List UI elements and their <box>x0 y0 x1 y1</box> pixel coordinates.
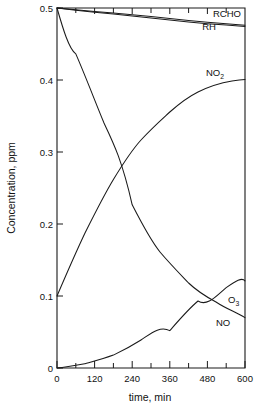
series-curves <box>57 8 245 368</box>
x-axis-tick-labels: 0 120 240 360 480 600 <box>54 373 253 384</box>
y-tick-label-0.5: 0.5 <box>40 3 53 14</box>
x-axis-title: time, min <box>129 391 172 403</box>
chart-canvas: 0.5 0.4 0.3 0.2 0.1 0 <box>0 0 263 410</box>
series-label-rcho: RCHO <box>213 8 241 19</box>
curve-no <box>57 8 245 318</box>
x-tick-label-120: 120 <box>87 373 103 384</box>
series-label-no: NO <box>216 317 230 328</box>
series-labels: RCHO RH NO2 NO O3 <box>202 8 241 328</box>
chart-figure: 0.5 0.4 0.3 0.2 0.1 0 <box>0 0 263 410</box>
curve-no2 <box>57 80 245 296</box>
x-tick-label-480: 480 <box>199 373 215 384</box>
y-axis-ticks <box>57 8 63 368</box>
y-tick-label-0.4: 0.4 <box>40 75 53 86</box>
y-tick-label-0.2: 0.2 <box>40 219 53 230</box>
x-axis-ticks <box>57 361 245 368</box>
x-tick-label-600: 600 <box>237 373 253 384</box>
y-tick-label-0.1: 0.1 <box>40 291 53 302</box>
y-axis-tick-labels: 0.5 0.4 0.3 0.2 0.1 0 <box>40 3 53 374</box>
y-axis-title: Concentration, ppm <box>5 142 17 234</box>
series-label-rh: RH <box>202 21 216 32</box>
x-tick-label-240: 240 <box>124 373 140 384</box>
plot-frame <box>57 8 245 368</box>
y-tick-label-0.3: 0.3 <box>40 147 53 158</box>
y-tick-label-0: 0 <box>48 363 53 374</box>
x-tick-label-360: 360 <box>162 373 178 384</box>
series-label-no2: NO2 <box>206 67 224 80</box>
x-tick-label-0: 0 <box>54 373 59 384</box>
series-label-o3: O3 <box>228 294 239 307</box>
